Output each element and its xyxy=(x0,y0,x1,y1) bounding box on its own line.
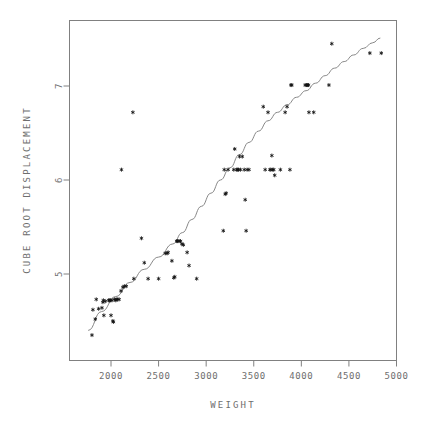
y-tick-label: 6 xyxy=(54,177,64,183)
y-tick-label: 7 xyxy=(54,83,64,89)
x-tick-label: 4500 xyxy=(337,371,361,381)
plot-background xyxy=(0,0,431,426)
plot-canvas: 2000250030003500400045005000 567 WEIGHT … xyxy=(0,0,431,426)
x-tick-label: 3000 xyxy=(194,371,218,381)
x-tick-label: 5000 xyxy=(384,371,408,381)
x-tick-label: 4000 xyxy=(289,371,313,381)
y-axis-title: CUBE ROOT DISPLACEMENT xyxy=(22,106,32,274)
scatter-plot-figure: 2000250030003500400045005000 567 WEIGHT … xyxy=(0,0,431,426)
x-axis-title: WEIGHT xyxy=(210,400,256,410)
y-tick-label: 5 xyxy=(54,271,64,277)
x-tick-label: 2500 xyxy=(147,371,171,381)
x-tick-label: 2000 xyxy=(99,371,123,381)
x-tick-label: 3500 xyxy=(242,371,266,381)
